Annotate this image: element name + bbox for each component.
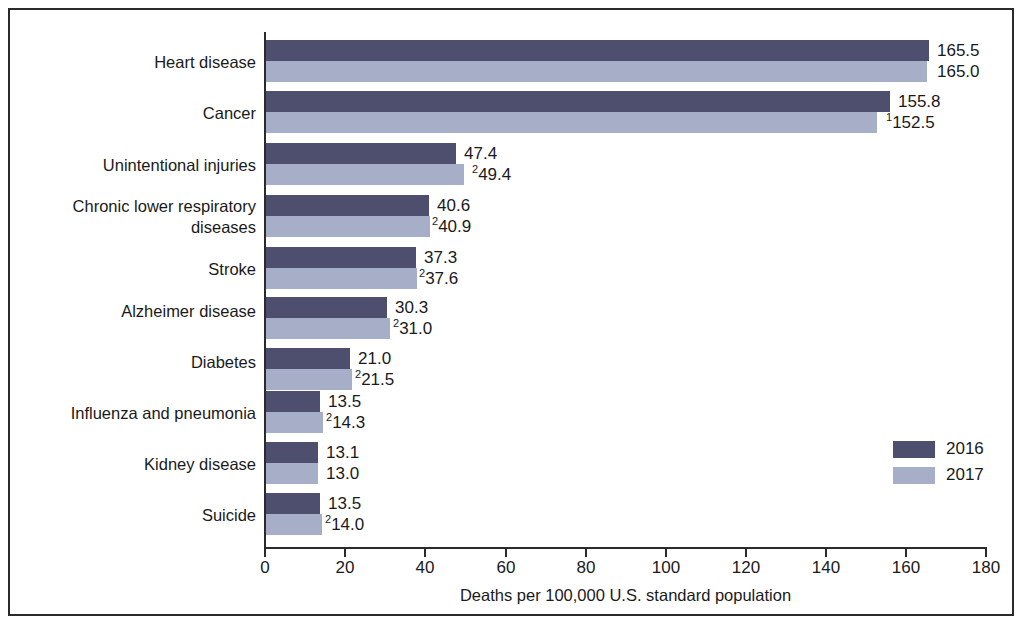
- category-label-line1: Stroke: [208, 260, 256, 278]
- x-tick-mark-160: [905, 549, 907, 557]
- x-tick-mark-20: [344, 549, 346, 557]
- bar-2016-cancer: [266, 91, 890, 112]
- x-tick-label-160: 160: [892, 558, 920, 578]
- x-tick-label-180: 180: [972, 558, 1000, 578]
- x-tick-mark-0: [264, 549, 266, 557]
- category-label-stroke: Stroke: [20, 259, 256, 280]
- bar-value-2016-cancer: 155.8: [898, 91, 941, 112]
- category-label-unintentional-injuries: Unintentional injuries: [20, 155, 256, 176]
- x-tick-label-100: 100: [652, 558, 680, 578]
- bar-2017-unintentional-injuries: [266, 164, 464, 185]
- category-label-line1: Diabetes: [191, 353, 256, 371]
- bar-value-2016-influenza-and-pneumonia: 13.5: [328, 391, 361, 412]
- x-tick-mark-40: [424, 549, 426, 557]
- bar-2017-cancer: [266, 112, 877, 133]
- bar-value-2016-heart-disease: 165.5: [937, 40, 980, 61]
- bar-2017-suicide: [266, 514, 322, 535]
- category-label-kidney-disease: Kidney disease: [20, 454, 256, 475]
- x-tick-label-60: 60: [497, 558, 516, 578]
- category-label-influenza-and-pneumonia: Influenza and pneumonia: [20, 403, 256, 424]
- category-label-line1: Alzheimer disease: [121, 302, 256, 320]
- x-tick-label-80: 80: [577, 558, 596, 578]
- legend-label-2017: 2017: [946, 465, 984, 485]
- bar-value-2017-influenza-and-pneumonia: 214.3: [326, 412, 365, 433]
- bar-2017-influenza-and-pneumonia: [266, 412, 323, 433]
- category-label-suicide: Suicide: [20, 505, 256, 526]
- bar-2017-alzheimer-disease: [266, 318, 390, 339]
- bar-value-2016-stroke: 37.3: [424, 247, 457, 268]
- bar-value-2017-kidney-disease: 13.0: [326, 463, 359, 484]
- bar-2016-heart-disease: [266, 40, 929, 61]
- legend-item-2017: 2017: [893, 462, 984, 488]
- category-label-line1: Kidney disease: [144, 455, 256, 473]
- bar-value-2017-chronic-lower-respiratory-diseases: 240.9: [432, 216, 471, 237]
- bar-value-2017-unintentional-injuries: 249.4: [472, 164, 511, 185]
- bar-value-2017-diabetes: 221.5: [355, 369, 394, 390]
- chart-figure: 0 20 40 60 80 100 120 140 160 180 Deaths…: [0, 0, 1024, 626]
- legend-swatch-2016: [893, 441, 935, 458]
- bar-2016-suicide: [266, 493, 320, 514]
- bar-2017-stroke: [266, 268, 417, 289]
- legend-swatch-2017: [893, 467, 935, 484]
- bar-2017-chronic-lower-respiratory-diseases: [266, 216, 430, 237]
- x-tick-mark-100: [665, 549, 667, 557]
- category-label-alzheimer-disease: Alzheimer disease: [20, 301, 256, 322]
- bar-2016-chronic-lower-respiratory-diseases: [266, 195, 429, 216]
- category-label-cancer: Cancer: [20, 103, 256, 124]
- bar-value-2016-diabetes: 21.0: [358, 348, 391, 369]
- category-label-line1: Heart disease: [154, 53, 256, 71]
- bar-value-2016-kidney-disease: 13.1: [326, 442, 359, 463]
- x-tick-label-140: 140: [812, 558, 840, 578]
- legend-item-2016: 2016: [893, 436, 984, 462]
- x-axis-title: Deaths per 100,000 U.S. standard populat…: [264, 586, 987, 605]
- x-tick-mark-140: [825, 549, 827, 557]
- bar-value-2016-unintentional-injuries: 47.4: [464, 143, 497, 164]
- bar-2016-unintentional-injuries: [266, 143, 456, 164]
- x-tick-mark-60: [505, 549, 507, 557]
- bar-value-2017-alzheimer-disease: 231.0: [393, 318, 432, 339]
- bar-2016-influenza-and-pneumonia: [266, 391, 320, 412]
- category-label-line1: Suicide: [202, 506, 256, 524]
- x-axis-line: [264, 547, 987, 549]
- category-label-chronic-lower-respiratory-diseases: Chronic lower respiratory diseases: [20, 196, 256, 238]
- bar-value-2017-stroke: 237.6: [419, 268, 458, 289]
- x-tick-mark-80: [585, 549, 587, 557]
- bar-value-2016-chronic-lower-respiratory-diseases: 40.6: [437, 195, 470, 216]
- x-tick-mark-120: [745, 549, 747, 557]
- category-label-diabetes: Diabetes: [20, 352, 256, 373]
- bar-value-2017-cancer: 1152.5: [886, 112, 935, 133]
- chart-legend: 2016 2017: [893, 436, 984, 488]
- x-tick-label-0: 0: [260, 558, 269, 578]
- category-label-line1: Unintentional injuries: [103, 156, 256, 174]
- legend-label-2016: 2016: [946, 439, 984, 459]
- bar-value-2017-suicide: 214.0: [325, 514, 364, 535]
- category-label-line1: Chronic lower respiratory: [20, 196, 256, 217]
- x-tick-label-120: 120: [732, 558, 760, 578]
- bar-value-2016-alzheimer-disease: 30.3: [395, 297, 428, 318]
- bar-2017-heart-disease: [266, 61, 927, 82]
- x-tick-mark-180: [985, 549, 987, 557]
- bar-2016-alzheimer-disease: [266, 297, 387, 318]
- bar-value-2016-suicide: 13.5: [328, 493, 361, 514]
- bar-value-2017-heart-disease: 165.0: [937, 61, 980, 82]
- category-label-heart-disease: Heart disease: [20, 52, 256, 73]
- category-label-line1: Cancer: [203, 104, 256, 122]
- bar-2016-diabetes: [266, 348, 350, 369]
- x-tick-label-20: 20: [336, 558, 355, 578]
- bar-2017-diabetes: [266, 369, 352, 390]
- bar-2016-kidney-disease: [266, 442, 318, 463]
- x-tick-label-40: 40: [416, 558, 435, 578]
- category-label-line1: Influenza and pneumonia: [71, 404, 256, 422]
- bar-2016-stroke: [266, 247, 416, 268]
- bar-2017-kidney-disease: [266, 463, 318, 484]
- category-label-line2: diseases: [20, 217, 256, 238]
